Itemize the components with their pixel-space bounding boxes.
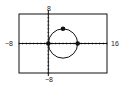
point-origin	[46, 41, 51, 46]
point-x-intercept	[75, 41, 80, 46]
y-max-label: 8	[47, 5, 51, 12]
x-max-label: 16	[111, 40, 119, 47]
point-top	[61, 26, 66, 31]
y-min-label: −8	[45, 76, 53, 83]
graph-window: 8 −8 16 −8	[0, 0, 123, 85]
x-min-label: −8	[5, 40, 13, 47]
